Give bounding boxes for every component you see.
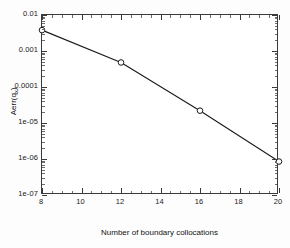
y-axis-minor-tick-mark bbox=[275, 167, 278, 168]
x-axis-tick-label: 8 bbox=[39, 198, 43, 206]
y-axis-minor-tick-mark bbox=[275, 29, 278, 30]
y-axis-label: Aerr(qx) bbox=[9, 41, 20, 161]
y-axis-minor-tick-mark bbox=[42, 101, 45, 102]
y-axis-minor-tick-mark bbox=[275, 170, 278, 171]
y-axis-minor-tick-mark bbox=[275, 93, 278, 94]
y-axis-minor-tick-mark bbox=[42, 184, 45, 185]
y-axis-minor-tick-mark bbox=[275, 134, 278, 135]
y-axis-minor-tick-mark bbox=[275, 129, 278, 130]
x-axis-minor-tick-mark bbox=[170, 191, 171, 194]
x-axis-minor-tick-mark bbox=[62, 15, 63, 18]
y-axis-tick-label: 0.0001 bbox=[14, 82, 38, 90]
y-axis-minor-tick-mark bbox=[42, 21, 45, 22]
y-axis-minor-tick-mark bbox=[275, 142, 278, 143]
x-axis-minor-tick-mark bbox=[62, 191, 63, 194]
y-axis-minor-tick-mark bbox=[42, 165, 45, 166]
y-axis-minor-tick-mark bbox=[275, 165, 278, 166]
y-axis-minor-tick-mark bbox=[42, 148, 45, 149]
x-axis-minor-tick-mark bbox=[220, 191, 221, 194]
y-axis-label-subscript: x bbox=[13, 90, 19, 93]
y-axis-tick-mark bbox=[42, 195, 47, 196]
x-axis-minor-tick-mark bbox=[230, 191, 231, 194]
x-axis-minor-tick-mark bbox=[210, 191, 211, 194]
y-axis-minor-tick-mark bbox=[42, 40, 45, 41]
y-axis-minor-tick-mark bbox=[275, 26, 278, 27]
y-axis-minor-tick-mark bbox=[275, 95, 278, 96]
x-axis-tick-mark bbox=[161, 15, 162, 20]
y-axis-minor-tick-mark bbox=[42, 134, 45, 135]
x-axis-tick-mark bbox=[240, 15, 241, 20]
x-axis-tick-mark bbox=[42, 15, 43, 20]
y-axis-tick-label: 0.001 bbox=[19, 46, 38, 54]
data-series-layer bbox=[42, 15, 279, 195]
x-axis-minor-tick-mark bbox=[151, 191, 152, 194]
x-axis-minor-tick-mark bbox=[210, 15, 211, 18]
y-axis-minor-tick-mark bbox=[42, 161, 45, 162]
x-axis-minor-tick-mark bbox=[190, 15, 191, 18]
x-axis-label: Number of boundary collocations bbox=[41, 228, 278, 237]
y-axis-minor-tick-mark bbox=[275, 76, 278, 77]
y-axis-minor-tick-mark bbox=[275, 178, 278, 179]
x-axis-minor-tick-mark bbox=[180, 15, 181, 18]
y-axis-minor-tick-mark bbox=[42, 126, 45, 127]
x-axis-tick-mark bbox=[82, 15, 83, 20]
y-axis-minor-tick-mark bbox=[275, 65, 278, 66]
x-axis-tick-mark bbox=[121, 188, 122, 193]
x-axis-minor-tick-mark bbox=[101, 15, 102, 18]
x-axis-tick-mark bbox=[42, 188, 43, 193]
x-axis-minor-tick-mark bbox=[131, 191, 132, 194]
x-axis-minor-tick-mark bbox=[180, 191, 181, 194]
y-axis-minor-tick-mark bbox=[275, 21, 278, 22]
x-axis-minor-tick-mark bbox=[151, 15, 152, 18]
y-axis-tick-mark bbox=[272, 195, 277, 196]
x-axis-minor-tick-mark bbox=[230, 15, 231, 18]
y-axis-minor-tick-mark bbox=[275, 106, 278, 107]
y-axis-minor-tick-mark bbox=[275, 161, 278, 162]
data-point-marker bbox=[276, 159, 282, 165]
y-axis-minor-tick-mark bbox=[275, 131, 278, 132]
y-axis-minor-tick-mark bbox=[275, 125, 278, 126]
y-axis-minor-tick-mark bbox=[275, 57, 278, 58]
x-axis-minor-tick-mark bbox=[170, 15, 171, 18]
x-axis-minor-tick-mark bbox=[141, 15, 142, 18]
y-axis-minor-tick-mark bbox=[275, 112, 278, 113]
y-axis-minor-tick-mark bbox=[42, 131, 45, 132]
x-axis-tick-mark bbox=[240, 188, 241, 193]
x-axis-minor-tick-mark bbox=[269, 191, 270, 194]
y-axis-minor-tick-mark bbox=[42, 59, 45, 60]
y-axis-minor-tick-mark bbox=[275, 18, 278, 19]
x-axis-minor-tick-mark bbox=[111, 191, 112, 194]
y-axis-minor-tick-mark bbox=[42, 57, 45, 58]
y-axis-minor-tick-mark bbox=[275, 89, 278, 90]
x-axis-minor-tick-mark bbox=[141, 191, 142, 194]
x-axis-tick-mark bbox=[279, 188, 280, 193]
y-axis-minor-tick-mark bbox=[42, 90, 45, 91]
y-axis-minor-tick-mark bbox=[275, 70, 278, 71]
y-axis-minor-tick-mark bbox=[42, 54, 45, 55]
y-axis-minor-tick-mark bbox=[275, 101, 278, 102]
x-axis-tick-label: 16 bbox=[195, 198, 203, 206]
x-axis-tick-mark bbox=[161, 188, 162, 193]
y-axis-minor-tick-mark bbox=[42, 53, 45, 54]
x-axis-tick-mark bbox=[200, 188, 201, 193]
y-axis-minor-tick-mark bbox=[42, 76, 45, 77]
y-axis-minor-tick-mark bbox=[275, 137, 278, 138]
x-axis-minor-tick-mark bbox=[101, 191, 102, 194]
y-axis-minor-tick-mark bbox=[275, 173, 278, 174]
y-axis-label-base: Aerr(q bbox=[9, 93, 18, 115]
y-axis-minor-tick-mark bbox=[42, 93, 45, 94]
x-axis-minor-tick-mark bbox=[259, 191, 260, 194]
x-axis-minor-tick-mark bbox=[259, 15, 260, 18]
plot-area bbox=[41, 14, 278, 194]
y-axis-minor-tick-mark bbox=[42, 173, 45, 174]
x-axis-minor-tick-mark bbox=[269, 15, 270, 18]
x-axis-minor-tick-mark bbox=[220, 15, 221, 18]
data-point-marker bbox=[197, 108, 203, 114]
x-axis-minor-tick-mark bbox=[91, 15, 92, 18]
y-axis-minor-tick-mark bbox=[275, 23, 278, 24]
x-axis-tick-label: 12 bbox=[116, 198, 124, 206]
y-axis-minor-tick-mark bbox=[42, 65, 45, 66]
x-axis-minor-tick-mark bbox=[111, 15, 112, 18]
x-axis-tick-mark bbox=[121, 15, 122, 20]
x-axis-minor-tick-mark bbox=[249, 15, 250, 18]
